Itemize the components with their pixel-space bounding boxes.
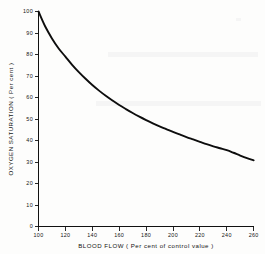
y-tick-label-40: 40 [26, 137, 33, 143]
x-axis-title: BLOOD FLOW ( Per cent of control value ) [78, 242, 213, 249]
x-tick-label-120: 120 [60, 232, 70, 238]
y-tick-label-100: 100 [23, 8, 33, 14]
y-tick-label-50: 50 [26, 116, 33, 122]
y-axis-title: OXYGEN SATURATION ( Per cent ) [7, 63, 14, 176]
x-tick-label-200: 200 [168, 232, 178, 238]
y-tick-label-10: 10 [26, 202, 33, 208]
oxygen-saturation-curve [39, 12, 254, 161]
y-tick-label-60: 60 [26, 94, 33, 100]
x-axis-ticks: 100 120 140 160 180 200 220 240 260 [33, 227, 258, 239]
scan-artifact [236, 18, 241, 21]
y-tick-label-30: 30 [26, 159, 33, 165]
x-tick-label-220: 220 [195, 232, 205, 238]
x-tick-label-160: 160 [114, 232, 124, 238]
oxygen-saturation-line-chart: 0 10 20 30 40 50 60 70 80 90 100 [0, 0, 265, 254]
scan-artifact [108, 52, 258, 57]
x-tick-label-240: 240 [222, 232, 232, 238]
y-axis-ticks: 0 10 20 30 40 50 60 70 80 90 100 [23, 8, 39, 229]
y-tick-label-20: 20 [26, 180, 33, 186]
y-tick-label-0: 0 [30, 223, 33, 229]
y-tick-label-70: 70 [26, 73, 33, 79]
x-tick-label-180: 180 [141, 232, 151, 238]
x-tick-label-260: 260 [249, 232, 259, 238]
x-tick-label-100: 100 [33, 232, 43, 238]
y-tick-label-90: 90 [26, 30, 33, 36]
y-tick-label-80: 80 [26, 51, 33, 57]
figure-root: 0 10 20 30 40 50 60 70 80 90 100 [0, 0, 265, 254]
x-tick-label-140: 140 [87, 232, 97, 238]
